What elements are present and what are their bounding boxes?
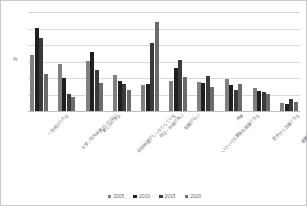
plot-area: 024681012 bbox=[28, 12, 300, 111]
bar bbox=[285, 104, 289, 111]
bar bbox=[127, 90, 131, 111]
bar-group bbox=[30, 12, 48, 111]
legend-swatch-icon bbox=[185, 195, 189, 199]
legend-item[interactable]: 2015 bbox=[159, 194, 176, 199]
legend-item[interactable]: 2020 bbox=[185, 194, 202, 199]
bar-chart: % 024681012 一生続けられる大学・短大卒業がいらない楽しみがある研修制… bbox=[1, 1, 307, 206]
bar bbox=[178, 60, 182, 111]
x-axis-line bbox=[28, 111, 300, 112]
bar bbox=[294, 102, 298, 111]
bar bbox=[122, 84, 126, 111]
legend-label: 2005 bbox=[113, 194, 124, 199]
chart-legend: 2005201020152020 bbox=[1, 194, 307, 199]
bar-group bbox=[280, 12, 298, 111]
bar bbox=[266, 94, 270, 111]
bar-group bbox=[225, 12, 243, 111]
legend-label: 2015 bbox=[165, 194, 176, 199]
bar bbox=[35, 28, 39, 111]
bar bbox=[234, 90, 238, 111]
bar bbox=[30, 55, 34, 111]
bar bbox=[262, 92, 266, 111]
bar bbox=[62, 78, 66, 111]
bar bbox=[197, 82, 201, 111]
bar bbox=[183, 77, 187, 111]
bar bbox=[71, 97, 75, 111]
bar bbox=[169, 81, 173, 111]
legend-swatch-icon bbox=[159, 195, 163, 199]
bar bbox=[44, 74, 48, 111]
bar bbox=[225, 79, 229, 111]
bar bbox=[229, 85, 233, 111]
legend-item[interactable]: 2010 bbox=[133, 194, 150, 199]
bar-group bbox=[197, 12, 215, 111]
bar-group bbox=[169, 12, 187, 111]
legend-swatch-icon bbox=[133, 195, 137, 199]
chart-frame: % 024681012 一生続けられる大学・短大卒業がいらない楽しみがある研修制… bbox=[0, 0, 307, 206]
bar bbox=[86, 61, 90, 111]
bar bbox=[289, 99, 293, 111]
legend-item[interactable]: 2005 bbox=[108, 194, 125, 199]
x-axis-labels: 一生続けられる大学・短大卒業がいらない楽しみがある研修制度がしっかりしている休日… bbox=[28, 113, 300, 171]
x-axis-label: 一生続けられる bbox=[46, 113, 69, 136]
bar-groups bbox=[28, 12, 300, 111]
bar bbox=[155, 22, 159, 111]
bar bbox=[210, 87, 214, 111]
bar bbox=[150, 43, 154, 111]
bar-group bbox=[86, 12, 104, 111]
bar bbox=[113, 75, 117, 111]
bar bbox=[39, 38, 43, 111]
bar bbox=[238, 84, 242, 111]
bar bbox=[146, 84, 150, 111]
bar bbox=[280, 103, 284, 111]
bar bbox=[58, 64, 62, 111]
legend-swatch-icon bbox=[108, 195, 112, 199]
bar-group bbox=[113, 12, 131, 111]
y-axis-unit-label: % bbox=[13, 57, 17, 62]
legend-label: 2010 bbox=[139, 194, 150, 199]
bar bbox=[95, 70, 99, 111]
bar bbox=[257, 91, 261, 111]
x-axis-label: 転勤がない bbox=[183, 113, 201, 131]
bar bbox=[99, 83, 103, 111]
x-axis-label: 将来 bbox=[235, 113, 244, 122]
bar-group bbox=[58, 12, 76, 111]
bar bbox=[118, 81, 122, 111]
bar-group bbox=[253, 12, 271, 111]
bar bbox=[174, 68, 178, 111]
bar bbox=[201, 83, 205, 111]
bar bbox=[90, 52, 94, 111]
x-axis-label: 事業を多角化している bbox=[300, 113, 307, 145]
bar-group bbox=[141, 12, 159, 111]
legend-label: 2020 bbox=[190, 194, 201, 199]
bar bbox=[253, 88, 257, 111]
bar bbox=[206, 76, 210, 111]
x-axis-label: 若手から活躍できる bbox=[272, 113, 301, 142]
x-axis-label: 研修制度がしっかりしている bbox=[136, 113, 176, 153]
bar bbox=[141, 85, 145, 111]
bar bbox=[67, 94, 71, 111]
